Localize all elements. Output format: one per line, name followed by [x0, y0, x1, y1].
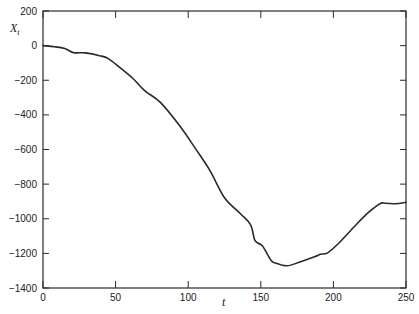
- y-axis-label: Xt: [9, 21, 20, 37]
- y-tick-label: −1200: [9, 248, 38, 259]
- y-tick-label: −200: [14, 75, 37, 86]
- y-tick-label: 200: [20, 6, 37, 17]
- x-tick-label: 250: [398, 292, 415, 303]
- y-tick-label: −800: [14, 179, 37, 190]
- line-chart: 2000−200−400−600−800−1000−1200−1400 0501…: [0, 0, 419, 314]
- y-tick-label: −1000: [9, 213, 38, 224]
- x-tick-label: 100: [180, 292, 197, 303]
- x-tick-label: 150: [252, 292, 269, 303]
- y-tick-label: −600: [14, 144, 37, 155]
- plot-border: [43, 11, 406, 288]
- series-line-xt: [43, 46, 406, 266]
- y-tick-label: −1400: [9, 283, 38, 294]
- y-tick-label: −400: [14, 109, 37, 120]
- x-tick-label: 200: [325, 292, 342, 303]
- y-tick-label: 0: [31, 40, 37, 51]
- plot-frame: [43, 11, 406, 288]
- x-tick-label: 0: [40, 292, 46, 303]
- x-axis-label: t: [222, 295, 226, 309]
- y-axis: 2000−200−400−600−800−1000−1200−1400: [9, 6, 406, 294]
- x-tick-label: 50: [110, 292, 122, 303]
